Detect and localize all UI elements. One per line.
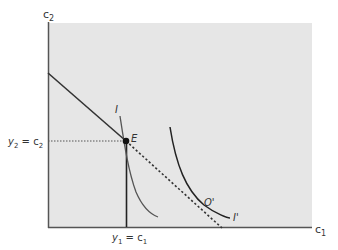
point-E-label: E bbox=[131, 133, 138, 144]
plot-panel bbox=[48, 23, 312, 228]
curve-I-label: I bbox=[115, 104, 118, 115]
intertemporal-choice-diagram: c2 c1 y2 = c2 y1 = c1 E O' I I' bbox=[0, 0, 338, 250]
y2-equals-c2-label: y2 = c2 bbox=[7, 136, 43, 150]
y1-equals-c1-label: y1 = c1 bbox=[111, 232, 147, 246]
point-E-marker bbox=[123, 138, 130, 145]
curve-I-prime-label: I' bbox=[233, 212, 239, 223]
y-axis-label: c2 bbox=[43, 8, 54, 23]
point-O-prime-label: O' bbox=[204, 197, 215, 208]
x-axis-label: c1 bbox=[315, 223, 326, 238]
